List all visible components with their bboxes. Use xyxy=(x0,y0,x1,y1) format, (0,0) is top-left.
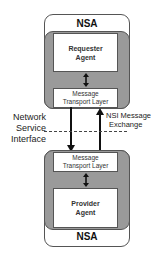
top-transport-layer-box: Message Transport Layer xyxy=(53,88,118,108)
bidirectional-arrow-icon xyxy=(82,73,90,87)
top-nsa-label: NSA xyxy=(44,18,130,29)
bottom-transport-line1: Message xyxy=(72,154,98,162)
requester-agent-line1: Requester xyxy=(68,44,102,53)
interface-line2: Service xyxy=(2,123,46,134)
message-arrows xyxy=(60,107,110,153)
bidirectional-arrow-icon xyxy=(82,173,90,187)
network-service-interface-label: Network Service Interface xyxy=(2,112,46,145)
exchange-line2: Exchange xyxy=(106,120,166,129)
up-arrow-icon xyxy=(96,108,104,115)
top-transport-line2: Transport Layer xyxy=(63,98,109,106)
top-transport-line1: Message xyxy=(72,90,98,98)
interface-line3: Interface xyxy=(2,134,46,145)
requester-agent-box: Requester Agent xyxy=(53,33,118,72)
requester-agent-line2: Agent xyxy=(76,53,96,62)
nsi-message-exchange-label: NSI Message Exchange xyxy=(106,111,166,129)
network-service-interface-line xyxy=(44,131,127,132)
provider-agent-box: Provider Agent xyxy=(53,188,118,228)
bottom-transport-line2: Transport Layer xyxy=(63,162,109,170)
provider-agent-line1: Provider xyxy=(71,199,99,208)
exchange-line1: NSI Message xyxy=(106,111,166,120)
bottom-transport-layer-box: Message Transport Layer xyxy=(53,152,118,172)
bottom-nsa-label: NSA xyxy=(44,231,130,242)
interface-line1: Network xyxy=(2,112,46,123)
provider-agent-line2: Agent xyxy=(76,208,96,217)
